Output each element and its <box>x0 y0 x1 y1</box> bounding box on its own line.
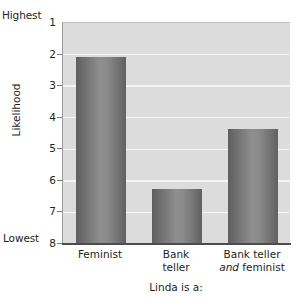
y-axis-tick-mark <box>57 148 62 149</box>
likelihood-bar-chart: Highest Lowest Likelihood 12345678 Femin… <box>0 0 296 297</box>
y-axis-tick-label: 7 <box>36 206 56 217</box>
y-axis-tick-mark <box>57 85 62 86</box>
y-axis-tick-label: 4 <box>36 111 56 122</box>
y-axis-tick-label: 5 <box>36 143 56 154</box>
y-axis-tick-labels: 12345678 <box>36 22 56 243</box>
y-axis-tick-mark <box>57 211 62 212</box>
x-axis-tick-label-line: and feminist <box>206 261 296 274</box>
y-axis-lowest-caption: Lowest <box>3 232 39 244</box>
y-axis-tick-label: 3 <box>36 80 56 91</box>
bar <box>228 129 278 243</box>
y-axis-tick-mark <box>57 117 62 118</box>
y-axis-title: Likelihood <box>10 74 22 146</box>
x-axis-tick-label-line: Bank teller <box>206 248 296 261</box>
x-axis-baseline <box>62 243 291 245</box>
emphasis-text: and <box>219 261 239 273</box>
y-axis-tick-label: 2 <box>36 48 56 59</box>
x-axis-title: Linda is a: <box>62 281 290 293</box>
x-axis-tick-label: Bank tellerand feminist <box>206 248 296 273</box>
y-axis-tick-mark <box>57 180 62 181</box>
plot-area <box>62 22 290 243</box>
y-axis-tick-label: 8 <box>36 238 56 249</box>
gridline <box>63 54 290 56</box>
y-axis-tick-label: 6 <box>36 175 56 186</box>
y-axis-tick-mark <box>57 54 62 55</box>
bar <box>76 57 126 243</box>
bar <box>152 189 202 243</box>
x-axis-tick-labels: FeministBanktellerBank tellerand feminis… <box>62 248 290 284</box>
y-axis-tick-mark <box>57 243 62 244</box>
y-axis-tick-label: 1 <box>36 17 56 28</box>
